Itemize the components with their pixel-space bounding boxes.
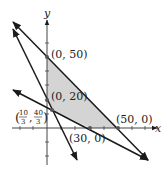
comma: , — [29, 111, 33, 124]
label-point-50-0: (50, 0) — [116, 113, 153, 126]
x-axis-label: x — [155, 122, 162, 135]
paren-close: ) — [43, 110, 48, 125]
frac1-numerator: 10 — [19, 109, 28, 117]
frac2-numerator: 40 — [34, 109, 43, 117]
y-axis-label: y — [43, 7, 51, 20]
label-point-0-50: (0, 50) — [51, 48, 88, 61]
label-point-10-3-40-3: ( 10 3 , 40 3 ) — [15, 109, 48, 126]
frac1-denominator: 3 — [21, 118, 25, 126]
feasible-region-diagram: y x (0, 50) (0, 20) (30, 0) (50, 0) ( 10… — [0, 0, 167, 175]
label-point-30-0: (30, 0) — [69, 132, 106, 145]
label-point-0-20: (0, 20) — [51, 90, 88, 103]
frac2-denominator: 3 — [36, 118, 40, 126]
